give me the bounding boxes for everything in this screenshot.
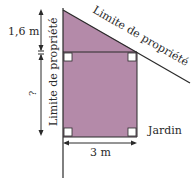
left-boundary-label: Limite de propriété <box>47 18 60 126</box>
width-label: 3 m <box>90 146 111 159</box>
unknown-height-label: ? <box>27 91 38 96</box>
garden-diagram: 1,6 m ? 3 m Limite de propriété Limite d… <box>0 0 193 181</box>
right-angle-marker <box>128 53 136 61</box>
right-angle-marker <box>64 128 72 136</box>
dimension-arrow-bottom <box>38 54 44 136</box>
garden-label: Jardin <box>147 124 182 137</box>
right-angle-marker <box>64 53 72 61</box>
right-angle-marker <box>128 128 136 136</box>
top-height-label: 1,6 m <box>8 25 40 38</box>
dimension-arrow-width <box>63 141 137 146</box>
